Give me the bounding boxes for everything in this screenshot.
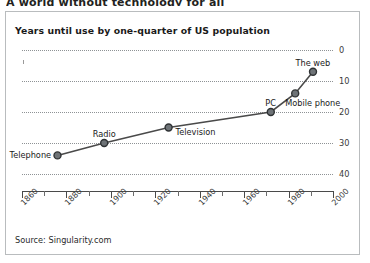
point-label-mobile-phone: Mobile phone: [285, 98, 340, 108]
x-tick-1890: [89, 191, 90, 196]
point-label-radio: Radio: [93, 129, 116, 139]
data-point-pc[interactable]: [267, 109, 274, 116]
point-label-the-web: The web: [296, 58, 331, 68]
x-tick-1950: [222, 191, 223, 196]
y-tick-label-10: 10: [339, 76, 349, 86]
point-label-telephone: Telephone: [10, 150, 52, 160]
plot-area: [22, 50, 333, 174]
y-tick-label-20: 20: [339, 107, 349, 117]
x-tick-1970: [266, 191, 267, 196]
data-point-television[interactable]: [165, 124, 172, 131]
y-tick-label-30: 30: [339, 138, 349, 148]
y-tick-label-0: 0: [339, 45, 344, 55]
page-headline: A world without technology for all: [6, 0, 224, 6]
x-tick-1990: [311, 191, 312, 196]
data-point-mobile-phone[interactable]: [292, 90, 299, 97]
point-label-pc: PC: [265, 98, 276, 108]
x-tick-1910: [133, 191, 134, 196]
point-label-television: Television: [176, 127, 216, 137]
chart-title: Years until use by one-quarter of US pop…: [15, 25, 270, 36]
gridline-40: [22, 174, 333, 175]
x-tick-1930: [178, 191, 179, 196]
data-point-radio[interactable]: [101, 140, 108, 147]
source-note: Source: Singularity.com: [15, 235, 111, 245]
series-svg: [22, 50, 333, 174]
x-tick-1870: [44, 191, 45, 196]
data-point-telephone[interactable]: [54, 152, 61, 159]
data-point-the-web[interactable]: [310, 68, 317, 75]
y-tick-label-40: 40: [339, 169, 349, 179]
